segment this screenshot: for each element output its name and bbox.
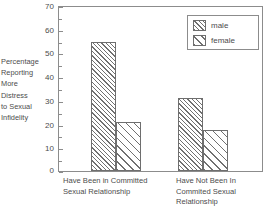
y-axis-tick-minor	[59, 161, 62, 162]
x-axis-group-label-line: Relationship	[176, 197, 236, 208]
bar-group2-male	[178, 98, 203, 172]
legend-label-female: female	[211, 37, 235, 45]
x-axis-group-label-2: Have Not Been In Commited Sexual Relatio…	[176, 176, 236, 208]
x-axis-group-label-1: Have Been in Committed Sexual Relationsh…	[63, 176, 147, 197]
legend-swatch-female-icon	[193, 35, 206, 46]
y-tick-label-40: 40	[34, 74, 54, 82]
x-axis-group-label-line: Have Not Been In	[176, 176, 236, 187]
y-axis-title: Percentage Reporting More Distress to Se…	[1, 56, 55, 123]
y-axis-tick-minor	[59, 43, 62, 44]
legend-item-male: male	[193, 20, 228, 31]
bar-group2-female	[203, 130, 228, 172]
bar-group1-male	[91, 42, 116, 171]
bar-group1-female	[116, 122, 141, 171]
y-tick-label-10: 10	[34, 145, 54, 153]
legend-label-male: male	[211, 22, 228, 30]
y-tick-label-50: 50	[34, 50, 54, 58]
y-tick-label-60: 60	[34, 27, 54, 35]
y-axis-tick-minor	[59, 19, 62, 20]
x-axis-group-label-line: Have Been in Committed	[63, 176, 147, 187]
legend-swatch-male-icon	[193, 20, 206, 31]
x-axis-group-label-line: Sexual Relationship	[63, 187, 147, 198]
y-axis-tick-major	[59, 78, 63, 79]
y-axis-tick-major	[59, 7, 63, 8]
y-tick-label-30: 30	[34, 98, 54, 106]
y-axis-tick-minor	[59, 114, 62, 115]
bar-chart: Percentage Reporting More Distress to Se…	[0, 0, 271, 213]
y-axis-tick-major	[59, 54, 63, 55]
y-axis-tick-minor	[59, 90, 62, 91]
y-axis-tick-minor	[59, 137, 62, 138]
y-axis-tick-major	[59, 172, 63, 173]
y-axis-tick-minor	[59, 66, 62, 67]
y-axis-tick-major	[59, 126, 63, 127]
y-axis-tick-major	[59, 149, 63, 150]
legend: male female	[187, 15, 259, 50]
y-tick-label-0: 0	[34, 167, 54, 175]
y-axis-tick-major	[59, 31, 63, 32]
y-tick-label-70: 70	[34, 3, 54, 11]
legend-item-female: female	[193, 35, 235, 46]
y-axis-tick-major	[59, 102, 63, 103]
x-axis-group-label-line: Commited Sexual	[176, 187, 236, 198]
y-tick-label-20: 20	[34, 122, 54, 130]
